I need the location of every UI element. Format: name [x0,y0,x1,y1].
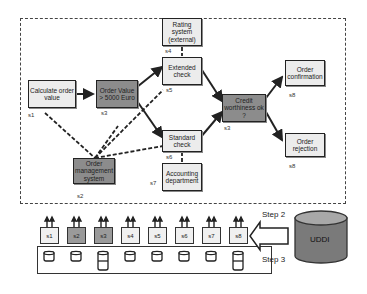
step-2-label: Step 2 [262,210,285,219]
uddi-label: UDDI [310,235,330,244]
database-icons [0,0,367,294]
arrow-left-icon [250,222,288,250]
step-3-label: Step 3 [262,255,285,264]
